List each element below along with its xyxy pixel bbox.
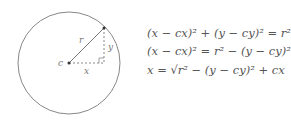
- equation-2: (x − cx)² = r² − (y − cy)²: [147, 44, 291, 58]
- equation-3: x = √r² − (y − cy)² + cx: [147, 63, 285, 77]
- center-label: c: [58, 58, 63, 68]
- equation-1: (x − cx)² + (y − cy)² = r²: [147, 26, 291, 40]
- circle-diagram: c r x y: [0, 0, 140, 123]
- y-label: y: [107, 42, 114, 52]
- right-angle-marker: [99, 58, 104, 63]
- center-point: [68, 62, 71, 65]
- radius-label: r: [79, 35, 84, 45]
- x-label: x: [84, 66, 89, 76]
- edge-point: [103, 27, 106, 30]
